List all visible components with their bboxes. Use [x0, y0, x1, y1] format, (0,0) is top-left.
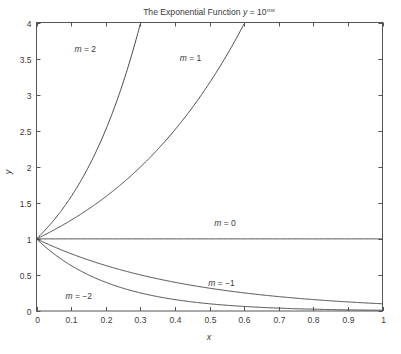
x-tick-label: 0: [35, 315, 40, 325]
y-tick-label: 1.5: [20, 199, 32, 209]
curve-label: m = 2: [75, 44, 97, 54]
x-tick-label: 0.3: [135, 315, 147, 325]
curves-group: [37, 24, 383, 310]
x-axis-ticks: [38, 23, 384, 312]
y-tick-label: 2: [27, 163, 32, 173]
y-tick-label: 0: [27, 307, 32, 317]
y-tick-label: 3: [27, 91, 32, 101]
x-tick-label: 0.8: [308, 315, 320, 325]
x-tick-label: 0.9: [343, 315, 355, 325]
x-tick-label: 0.6: [239, 315, 251, 325]
figure-container: 00.10.20.30.40.50.60.70.80.91 00.511.522…: [0, 0, 401, 354]
x-axis-tick-labels: 00.10.20.30.40.50.60.70.80.91: [35, 315, 386, 325]
exponential-function-chart: 00.10.20.30.40.50.60.70.80.91 00.511.522…: [0, 0, 401, 354]
x-tick-label: 0.7: [274, 315, 286, 325]
x-tick-label: 0.1: [66, 315, 78, 325]
x-tick-label: 0.2: [101, 315, 113, 325]
curve-m2: [37, 24, 141, 239]
curve-m1: [37, 24, 245, 239]
y-axis-label: y: [3, 169, 13, 175]
x-tick-label: 0.4: [170, 315, 182, 325]
curve-label: m = −1: [208, 278, 235, 288]
y-tick-label: 4: [27, 19, 32, 29]
y-tick-label: 1: [27, 235, 32, 245]
x-tick-label: 0.5: [205, 315, 217, 325]
y-tick-label: 0.5: [20, 271, 32, 281]
curve-labels-group: m = 2m = 1m = 0m = −1m = −2: [65, 44, 236, 301]
curve-label: m = 1: [180, 53, 202, 63]
chart-title: The Exponential Function y = 10mx: [143, 6, 276, 17]
y-tick-label: 3.5: [20, 55, 32, 65]
x-tick-label: 1: [381, 315, 386, 325]
curve-label: m = −2: [65, 291, 92, 301]
x-axis-label: x: [206, 332, 212, 342]
y-tick-label: 2.5: [20, 127, 32, 137]
y-axis-tick-labels: 00.511.522.533.54: [20, 19, 32, 317]
curve-label: m = 0: [214, 218, 236, 228]
